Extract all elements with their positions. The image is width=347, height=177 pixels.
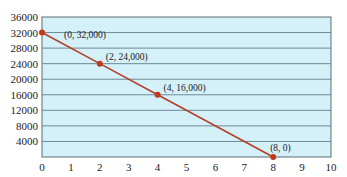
point-label: (2, 24,000): [106, 52, 148, 63]
data-point-marker: [155, 92, 161, 98]
y-axis-ticks: 4000800012000160002000024000280003200036…: [11, 11, 39, 147]
x-tick-label: 0: [39, 161, 45, 173]
y-tick-label: 32000: [11, 27, 39, 39]
data-point-marker: [39, 30, 45, 36]
data-point-marker: [97, 61, 103, 67]
point-label: (8, 0): [270, 143, 291, 154]
x-tick-label: 3: [126, 161, 132, 173]
y-tick-label: 24000: [11, 58, 39, 70]
x-axis-ticks: 012345678910: [39, 161, 337, 173]
y-tick-label: 4000: [16, 135, 39, 147]
x-tick-label: 6: [213, 161, 219, 173]
y-tick-label: 36000: [11, 11, 39, 23]
x-tick-label: 5: [184, 161, 190, 173]
point-label: (4, 16,000): [164, 83, 206, 94]
y-tick-label: 12000: [11, 104, 39, 116]
x-tick-label: 8: [270, 161, 276, 173]
point-label: (0, 32,000): [64, 30, 106, 41]
x-tick-label: 2: [97, 161, 103, 173]
x-tick-label: 10: [326, 161, 338, 173]
x-tick-label: 9: [299, 161, 305, 173]
x-tick-label: 1: [68, 161, 74, 173]
line-chart: 4000800012000160002000024000280003200036…: [0, 0, 347, 177]
y-tick-label: 8000: [16, 120, 39, 132]
data-point-marker: [270, 154, 276, 160]
y-tick-label: 16000: [11, 89, 39, 101]
y-tick-label: 28000: [11, 42, 39, 54]
x-tick-label: 7: [242, 161, 248, 173]
x-tick-label: 4: [155, 161, 161, 173]
y-tick-label: 20000: [11, 73, 39, 85]
